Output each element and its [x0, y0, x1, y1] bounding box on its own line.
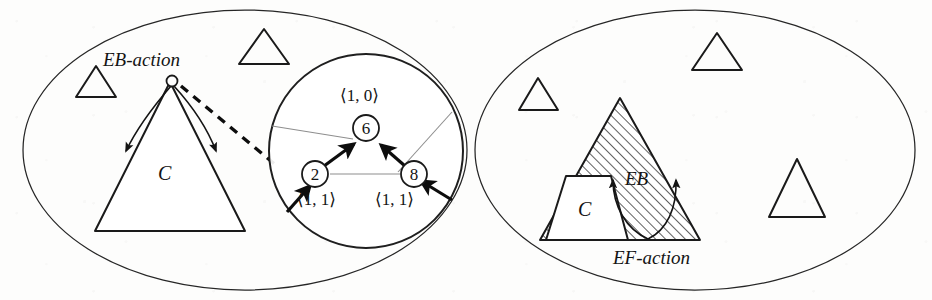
- graph-node-2-label: 2: [311, 165, 320, 184]
- diagram-canvas: C EB-action: [0, 0, 932, 300]
- right-panel-group: C EB EF-action: [475, 10, 915, 290]
- small-triangle-right-lower-right: [769, 159, 825, 217]
- graph-node-8-label: 8: [410, 165, 419, 184]
- small-triangle-right-top: [692, 33, 742, 70]
- graph-node-6-tuple: ⟨1, 0⟩: [340, 86, 379, 105]
- small-triangle-top-middle: [239, 29, 289, 64]
- diagram-svg: C EB-action: [0, 0, 932, 300]
- tree-label-C: C: [158, 162, 172, 184]
- ef-action-label: EF-action: [612, 247, 690, 268]
- eb-action-node: [167, 76, 178, 87]
- small-triangle-right-upper-left: [519, 78, 558, 110]
- graph-node-2-tuple: ⟨1, 1⟩: [297, 190, 336, 209]
- graph-node-8-tuple: ⟨1, 1⟩: [375, 190, 414, 209]
- right-tree-label-C: C: [578, 198, 592, 220]
- region-label-EB: EB: [624, 168, 649, 189]
- graph-node-6-label: 6: [362, 119, 371, 138]
- eb-action-label: EB-action: [102, 49, 180, 70]
- left-panel-group: C EB-action: [23, 10, 467, 290]
- small-triangle-left-upper: [76, 66, 116, 97]
- right-ellipse-boundary: [475, 10, 915, 290]
- magnifier-circle: [269, 54, 463, 248]
- magnifier-group: 6 ⟨1, 0⟩ 2 ⟨1, 1⟩ 8 ⟨1, 1⟩: [269, 54, 463, 248]
- tree-triangle-C: [95, 82, 245, 231]
